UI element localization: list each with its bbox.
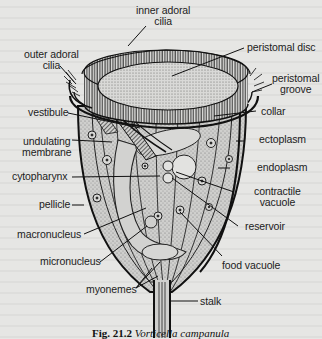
label-undulating-membrane: undulating membrane	[22, 136, 71, 158]
peristomal-disc	[82, 50, 250, 124]
label-inner-adoral-cilia: inner adoral cilia	[136, 5, 190, 27]
label-line: cilia	[24, 60, 79, 71]
caption-number: Fig. 21.2	[92, 327, 132, 339]
label-reservoir: reservoir	[245, 221, 285, 232]
label-stalk: stalk	[200, 296, 221, 307]
label-pellicle: pellicle	[39, 199, 70, 210]
label-collar: collar	[261, 106, 286, 117]
label-vestibule: vestibule	[28, 107, 69, 118]
label-myonemes: myonemes	[86, 284, 137, 295]
label-outer-adoral-cilia: outer adoral cilia	[24, 49, 79, 71]
label-line: membrane	[22, 147, 71, 158]
label-food-vacuole: food vacuole	[222, 260, 280, 271]
contractile-vacuole-shape	[172, 155, 196, 179]
label-peristomal-groove: peristomal groove	[272, 73, 319, 95]
figure-caption: Fig. 21.2 Vorticella campanula	[92, 327, 229, 339]
label-line: vacuole	[254, 197, 301, 208]
label-macronucleus: macronucleus	[17, 229, 81, 240]
caption-title: Vorticella campanula	[135, 327, 229, 339]
label-endoplasm: endoplasm	[257, 162, 307, 173]
label-cytopharynx: cytopharynx	[12, 171, 68, 182]
label-micronucleus: micronucleus	[40, 256, 101, 267]
label-line: cilia	[136, 16, 190, 27]
label-peristomal-disc: peristomal disc	[247, 42, 316, 53]
label-contractile-vacuole: contractile vacuole	[254, 186, 301, 208]
label-ectoplasm: ectoplasm	[259, 134, 306, 145]
reservoir-shape	[163, 161, 173, 171]
label-line: groove	[272, 84, 319, 95]
